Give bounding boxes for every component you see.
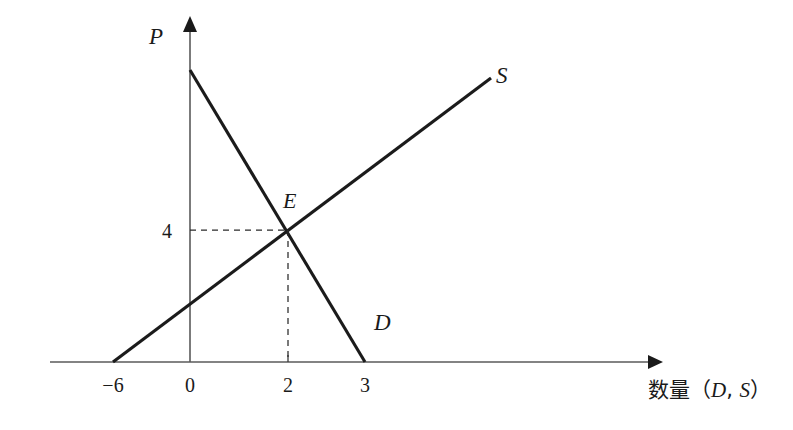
x-axis — [50, 355, 663, 369]
demand-curve-label: D — [373, 310, 391, 335]
x-axis-title-cjk: 数量 — [648, 378, 690, 402]
chart-svg: P 数量（D, S） S D E 4 −6 0 2 3 — [0, 0, 793, 430]
supply-demand-chart: P 数量（D, S） S D E 4 −6 0 2 3 — [0, 0, 793, 430]
x-tick-label-3: 3 — [360, 374, 370, 396]
x-tick-label-0: 0 — [185, 374, 195, 396]
x-axis-title-paren-close: ） — [750, 378, 771, 402]
x-axis-title: 数量（D, S） — [648, 378, 771, 402]
y-axis — [183, 16, 197, 362]
x-tick-label-2: 2 — [283, 374, 293, 396]
supply-curve-label: S — [496, 63, 508, 88]
demand-curve — [190, 70, 365, 362]
x-axis-title-comma: , — [726, 378, 739, 402]
y-tick-label-4: 4 — [162, 220, 172, 242]
x-axis-title-d: D — [710, 378, 726, 402]
x-tick-label-minus6: −6 — [102, 374, 123, 396]
x-axis-title-s: S — [740, 378, 751, 402]
y-axis-title: P — [148, 24, 163, 49]
x-axis-arrow-icon — [648, 355, 663, 369]
y-axis-arrow-icon — [183, 16, 197, 32]
x-axis-title-paren-open: （ — [690, 378, 711, 402]
equilibrium-point-label: E — [282, 188, 297, 213]
